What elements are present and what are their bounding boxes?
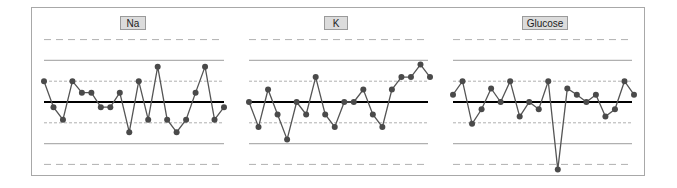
na-data-point	[155, 64, 161, 70]
glucose-data-point	[498, 99, 504, 105]
k-data-point	[408, 74, 414, 80]
k-data-point	[256, 124, 262, 130]
na-data-point	[212, 117, 218, 123]
glucose-series-line	[453, 81, 634, 169]
k-data-point	[284, 136, 290, 142]
glucose-data-point	[450, 92, 456, 98]
glucose-data-point	[555, 167, 561, 173]
glucose-data-point	[612, 106, 618, 112]
na-data-point	[117, 90, 123, 96]
na-data-point	[145, 117, 151, 123]
k-data-point	[294, 99, 300, 105]
glucose-data-point	[602, 114, 608, 120]
k-data-point	[379, 124, 385, 130]
na-data-point	[174, 129, 180, 135]
k-data-point	[332, 124, 338, 130]
na-data-point	[183, 117, 189, 123]
na-data-point	[98, 104, 104, 110]
k-data-point	[313, 74, 319, 80]
na-data-point	[126, 129, 132, 135]
k-data-point	[389, 87, 395, 93]
glucose-data-point	[536, 106, 542, 112]
k-data-point	[322, 111, 328, 117]
glucose-data-point	[564, 85, 570, 91]
glucose-data-point	[517, 114, 523, 120]
glucose-data-point	[469, 121, 475, 127]
glucose-data-point	[574, 92, 580, 98]
na-data-point	[50, 104, 56, 110]
k-data-point	[398, 74, 404, 80]
k-data-point	[351, 99, 357, 105]
glucose-data-point	[460, 78, 466, 84]
na-data-point	[41, 78, 47, 84]
glucose-data-point	[526, 99, 532, 105]
na-data-point	[221, 104, 227, 110]
glucose-data-point	[507, 78, 513, 84]
glucose-data-point	[488, 85, 494, 91]
k-data-point	[427, 74, 433, 80]
glucose-data-point	[593, 92, 599, 98]
na-data-point	[107, 104, 113, 110]
control-charts	[0, 0, 677, 188]
k-data-point	[360, 87, 366, 93]
k-data-point	[303, 111, 309, 117]
na-data-point	[88, 90, 94, 96]
na-data-point	[202, 64, 208, 70]
k-data-point	[275, 111, 281, 117]
k-data-point	[265, 87, 271, 93]
glucose-data-point	[479, 106, 485, 112]
glucose-data-point	[631, 92, 637, 98]
na-data-point	[136, 78, 142, 84]
k-data-point	[417, 62, 423, 68]
na-data-point	[69, 78, 75, 84]
glucose-data-point	[545, 78, 551, 84]
na-data-point	[193, 90, 199, 96]
na-data-point	[79, 90, 85, 96]
k-data-point	[246, 99, 252, 105]
na-data-point	[164, 117, 170, 123]
na-data-point	[60, 117, 66, 123]
glucose-data-point	[621, 78, 627, 84]
k-data-point	[370, 111, 376, 117]
glucose-data-point	[583, 99, 589, 105]
k-data-point	[341, 99, 347, 105]
